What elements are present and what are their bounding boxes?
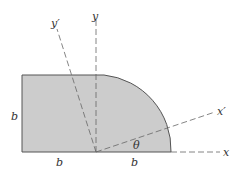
- label-bottom-right-b: b: [131, 156, 138, 169]
- label-theta: θ: [133, 139, 140, 152]
- shaded-region: [22, 75, 171, 152]
- label-y: y: [91, 10, 99, 23]
- label-bottom-left-b: b: [56, 156, 63, 169]
- label-x-prime: x′: [217, 105, 226, 118]
- label-y-prime: y′: [50, 17, 60, 30]
- label-left-b: b: [11, 110, 18, 123]
- label-x: x: [223, 146, 230, 159]
- diagram-canvas: y′ y x′ x θ b b b: [0, 0, 237, 173]
